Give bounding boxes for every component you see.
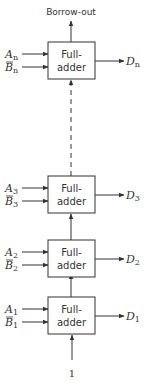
- full-adder-stage-1: Full-adderA1B1D1: [4, 297, 140, 334]
- input-a-label-1: A1: [4, 303, 18, 317]
- carry-in-label: 1: [69, 368, 75, 379]
- block-label-line1: Full-: [61, 304, 82, 315]
- input-b-label-1: B1: [4, 316, 18, 330]
- block-label-line2: adder: [57, 260, 87, 271]
- full-adder-block: [48, 176, 95, 213]
- full-adder-block: [48, 297, 95, 334]
- block-label-line1: Full-: [61, 247, 82, 258]
- input-b-label-2: B2: [4, 259, 18, 273]
- output-d-label-1: D1: [125, 310, 140, 324]
- input-b-label-n: Bn: [4, 61, 18, 75]
- output-d-label-3: D3: [125, 189, 140, 203]
- input-b-label-3: B3: [4, 195, 18, 209]
- output-d-label-n: Dn: [125, 55, 140, 69]
- full-adder-stage-2: Full-adderA2B2D2: [4, 240, 140, 277]
- block-label-line2: adder: [57, 62, 87, 73]
- block-label-line2: adder: [57, 317, 87, 328]
- borrow-out-label: Borrow-out: [46, 7, 96, 17]
- input-a-label-n: An: [4, 48, 18, 62]
- input-a-label-3: A3: [4, 182, 18, 196]
- full-adder-block: [48, 42, 95, 79]
- subtractor-diagram: Borrow-out 1 Full-adderAnBnDnFull-adderA…: [0, 0, 146, 381]
- full-adder-stage-n: Full-adderAnBnDn: [4, 42, 140, 79]
- block-label-line2: adder: [57, 196, 87, 207]
- block-label-line1: Full-: [61, 183, 82, 194]
- full-adder-stage-3: Full-adderA3B3D3: [4, 176, 140, 213]
- block-label-line1: Full-: [61, 49, 82, 60]
- input-a-label-2: A2: [4, 246, 18, 260]
- output-d-label-2: D2: [125, 253, 140, 267]
- full-adder-block: [48, 240, 95, 277]
